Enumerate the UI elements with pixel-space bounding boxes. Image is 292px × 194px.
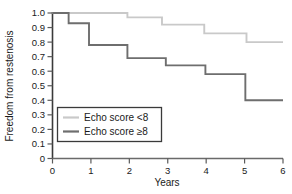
y-tick-label: 0.9 [32,22,45,33]
legend-label-echo-score-gte8: Echo score ≥8 [84,126,148,137]
legend: Echo score <8Echo score ≥8 [58,108,162,142]
y-axis-tick-labels: 00.10.20.30.40.50.60.70.80.91.0 [32,7,45,164]
x-axis-ticks [53,159,284,164]
y-tick-label: 0.7 [32,51,45,62]
x-tick-label: 5 [242,165,247,176]
series-line-echo-score-gte8 [53,13,284,100]
y-tick-label: 0.8 [32,37,45,48]
y-tick-label: 0.5 [32,80,45,91]
x-tick-label: 1 [88,165,93,176]
chart-figure: 00.10.20.30.40.50.60.70.80.91.0 0123456 … [0,0,292,194]
y-tick-label: 0.1 [32,138,45,149]
x-tick-label: 6 [280,165,285,176]
y-tick-label: 0.3 [32,109,45,120]
y-tick-label: 0.2 [32,124,45,135]
y-tick-label: 0.6 [32,66,45,77]
y-axis-title: Freedom from restenosis [4,30,15,141]
y-tick-label: 0 [40,153,45,164]
y-tick-label: 0.4 [32,95,45,106]
series-line-echo-score-lt8 [53,13,284,42]
x-axis-title: Years [154,177,179,188]
series-layer [53,13,284,100]
kaplan-meier-plot: 00.10.20.30.40.50.60.70.80.91.0 0123456 … [0,0,292,194]
y-tick-label: 1.0 [32,7,45,18]
x-tick-label: 2 [127,165,132,176]
x-axis-tick-labels: 0123456 [50,165,286,176]
x-tick-label: 4 [204,165,209,176]
x-tick-label: 3 [165,165,170,176]
legend-label-echo-score-lt8: Echo score <8 [84,112,149,123]
x-tick-label: 0 [50,165,55,176]
